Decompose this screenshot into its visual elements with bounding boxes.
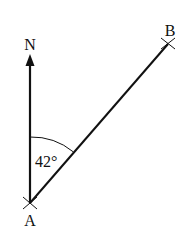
angle-label: 42° — [35, 153, 57, 170]
label-a: A — [24, 212, 36, 229]
line-ab — [30, 44, 168, 203]
point-b-cross — [161, 38, 175, 49]
bearing-diagram: N B A 42° — [0, 0, 186, 238]
angle-arc — [30, 137, 74, 152]
label-b: B — [165, 22, 176, 39]
label-n: N — [24, 36, 36, 53]
north-arrowhead — [26, 54, 35, 66]
